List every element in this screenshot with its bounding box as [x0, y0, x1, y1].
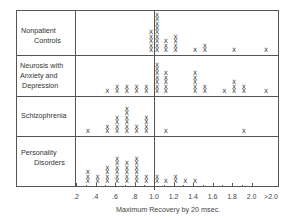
x-marker: X: [104, 175, 110, 179]
x-marker: X: [124, 179, 130, 183]
x-minor-tick: [183, 185, 184, 187]
x-marker: X: [143, 89, 149, 93]
x-marker: X: [85, 179, 91, 183]
x-marker: X: [202, 48, 208, 52]
x-marker: X: [134, 166, 140, 170]
x-marker: X: [114, 116, 120, 120]
x-marker: X: [173, 175, 179, 179]
row-label-line: Controls: [21, 36, 61, 46]
row-label-line: Neurosis with: [20, 61, 63, 71]
x-marker: X: [173, 48, 179, 52]
x-tick-label: 1.6: [208, 193, 218, 200]
x-marker: X: [192, 89, 198, 93]
row-label-line: Disorders: [21, 158, 65, 168]
x-tick-label: 1.8: [227, 193, 237, 200]
x-marker: X: [154, 63, 160, 67]
x-marker: X: [134, 157, 140, 161]
x-marker: X: [163, 39, 169, 43]
x-marker: X: [85, 175, 91, 179]
x-tick-label: .4: [93, 193, 99, 200]
x-marker: X: [154, 71, 160, 75]
x-marker: X: [124, 161, 130, 165]
row-label-nonpatient: Nonpatient Controls: [21, 26, 61, 46]
label-column-divider: [75, 10, 76, 187]
x-marker: X: [143, 175, 149, 179]
x-marker: X: [154, 22, 160, 26]
x-tick: [135, 183, 136, 187]
row-label-line: Personality: [21, 148, 65, 158]
x-marker: X: [124, 89, 130, 93]
x-tick: [154, 183, 155, 187]
x-marker: X: [221, 89, 227, 93]
x-marker: X: [124, 166, 130, 170]
x-tick-label: 1.2: [169, 193, 179, 200]
x-marker: X: [134, 129, 140, 133]
x-marker: X: [114, 157, 120, 161]
x-marker: X: [173, 39, 179, 43]
x-marker: X: [154, 30, 160, 34]
x-marker: X: [173, 44, 179, 48]
x-marker: X: [163, 76, 169, 80]
x-axis-title: Maximum Recovery by 20 msec.: [116, 205, 220, 214]
x-marker: X: [163, 80, 169, 84]
x-tick-label: 1.4: [188, 193, 198, 200]
x-minor-tick: [105, 185, 106, 187]
x-marker: X: [124, 170, 130, 174]
x-tick-label: >2.0: [264, 193, 278, 200]
x-marker: X: [114, 161, 120, 165]
x-marker: X: [124, 175, 130, 179]
x-marker: X: [114, 175, 120, 179]
x-tick-label: 1.0: [149, 193, 159, 200]
x-marker: X: [241, 129, 247, 133]
x-tick: [174, 183, 175, 187]
x-marker: X: [114, 89, 120, 93]
x-marker: X: [154, 48, 160, 52]
x-marker: X: [85, 170, 91, 174]
x-marker: X: [154, 35, 160, 39]
x-tick-label: .2: [73, 193, 79, 200]
x-marker: X: [134, 170, 140, 174]
row-divider-2: [16, 96, 279, 97]
x-marker: X: [134, 85, 140, 89]
row-label-line: Anxiety and: [20, 71, 63, 81]
x-marker: X: [114, 129, 120, 133]
x-marker: X: [134, 125, 140, 129]
x-marker: X: [163, 48, 169, 52]
x-marker: X: [143, 116, 149, 120]
x-marker: X: [202, 44, 208, 48]
x-marker: X: [143, 125, 149, 129]
row-divider-1: [16, 55, 279, 56]
row-label-line: Depression: [20, 81, 63, 91]
x-marker: X: [182, 179, 188, 183]
x-marker: X: [154, 67, 160, 71]
x-marker: X: [154, 89, 160, 93]
x-minor-tick: [242, 185, 243, 187]
row-divider-3: [16, 136, 279, 137]
x-marker: X: [134, 175, 140, 179]
x-marker: X: [154, 44, 160, 48]
x-marker: X: [163, 129, 169, 133]
x-tick: [213, 183, 214, 187]
x-marker: X: [124, 129, 130, 133]
x-marker: X: [202, 89, 208, 93]
x-marker: X: [124, 116, 130, 120]
x-tick: [76, 183, 77, 187]
x-tick: [252, 183, 253, 187]
x-marker: X: [173, 35, 179, 39]
x-marker: X: [263, 48, 269, 52]
x-marker: X: [124, 120, 130, 124]
row-label-schizophrenia: Schizophrenia: [21, 111, 67, 121]
x-marker: X: [192, 85, 198, 89]
x-marker: X: [143, 85, 149, 89]
row-label-personality: Personality Disorders: [21, 148, 65, 168]
x-marker: X: [114, 170, 120, 174]
row-label-line: Nonpatient: [21, 26, 61, 36]
x-marker: X: [192, 71, 198, 75]
x-marker: X: [124, 111, 130, 115]
x-marker: X: [124, 107, 130, 111]
x-marker: X: [163, 179, 169, 183]
x-tick: [232, 183, 233, 187]
x-marker: X: [231, 85, 237, 89]
x-marker: X: [263, 89, 269, 93]
x-marker: X: [154, 175, 160, 179]
